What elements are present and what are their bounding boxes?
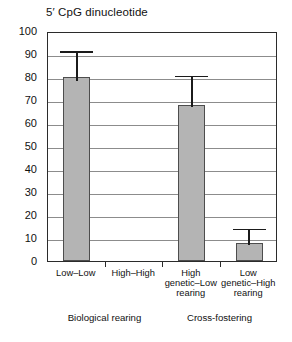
- group-labels: Biological rearingCross-fostering: [47, 312, 277, 332]
- errorbar-cap: [175, 76, 208, 78]
- y-tick-label: 100: [0, 26, 42, 37]
- y-tick-label: 70: [0, 95, 42, 106]
- group-label: Cross-fostering: [150, 312, 290, 323]
- y-tick-label: 30: [0, 187, 42, 198]
- y-tick-label: 80: [0, 72, 42, 83]
- chart-title: 5′ CpG dinucleotide: [46, 6, 148, 18]
- errorbar-cap: [233, 229, 266, 231]
- errorbar-stem: [191, 76, 193, 107]
- x-category-label: Lowgenetic–Highrearing: [214, 268, 284, 299]
- x-category-label-line: rearing: [214, 288, 284, 298]
- y-tick-label: 20: [0, 210, 42, 221]
- x-axis-labels: Low–LowHigh–HighHighgenetic–LowrearingLo…: [47, 268, 277, 308]
- x-tick: [105, 262, 106, 267]
- y-axis: 1009080706050403020100: [0, 0, 42, 342]
- plot-area: [47, 32, 277, 262]
- bar: [236, 243, 263, 261]
- bar: [63, 77, 90, 261]
- x-axis-ticks: [47, 262, 277, 267]
- y-tick-label: 50: [0, 141, 42, 152]
- errorbar-stem: [248, 229, 250, 245]
- y-tick-label: 60: [0, 118, 42, 129]
- y-tick-label: 10: [0, 233, 42, 244]
- y-tick-label: 40: [0, 164, 42, 175]
- gridline: [48, 56, 276, 57]
- chart-figure: 5′ CpG dinucleotide 10090807060504030201…: [0, 0, 292, 342]
- x-tick: [162, 262, 163, 267]
- bar: [178, 105, 205, 261]
- y-tick-label: 90: [0, 49, 42, 60]
- x-category-label-line: genetic–High: [214, 278, 284, 288]
- x-category-label-line: Low: [214, 268, 284, 278]
- y-tick-label: 0: [0, 256, 42, 267]
- x-tick: [220, 262, 221, 267]
- errorbar-cap: [60, 51, 93, 53]
- errorbar-stem: [76, 51, 78, 81]
